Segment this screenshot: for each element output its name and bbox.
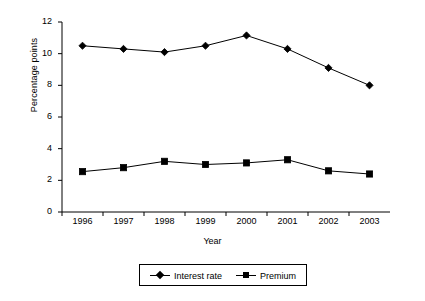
data-point-square bbox=[366, 171, 372, 177]
legend-label: Interest rate bbox=[174, 271, 222, 281]
square-marker-icon bbox=[236, 271, 256, 281]
data-point-square bbox=[120, 165, 126, 171]
y-axis-tick-label: 10 bbox=[30, 49, 52, 58]
y-axis-tick-label: 4 bbox=[30, 144, 52, 153]
data-point-square bbox=[79, 169, 85, 175]
data-point-square bbox=[202, 161, 208, 167]
line-chart: Percentage points 024681012 199619971998… bbox=[0, 0, 425, 301]
series-premium bbox=[79, 157, 372, 177]
y-axis-tick-label: 12 bbox=[30, 17, 52, 26]
legend-item-interest-rate: Interest rate bbox=[150, 269, 222, 283]
y-axis-tick-label: 0 bbox=[30, 207, 52, 216]
x-axis-tick-label: 2003 bbox=[348, 217, 392, 226]
legend-item-premium: Premium bbox=[236, 269, 296, 283]
x-axis-title: Year bbox=[0, 236, 425, 246]
y-axis-tick-label: 2 bbox=[30, 175, 52, 184]
legend-label: Premium bbox=[260, 271, 296, 281]
data-point-diamond bbox=[243, 32, 250, 39]
data-point-diamond bbox=[284, 45, 291, 52]
x-axis-tick-label: 2001 bbox=[266, 217, 310, 226]
x-axis-tick-label: 1997 bbox=[102, 217, 146, 226]
data-point-diamond bbox=[79, 42, 86, 49]
data-point-square bbox=[325, 168, 331, 174]
data-point-square bbox=[243, 160, 249, 166]
data-point-diamond bbox=[202, 42, 209, 49]
data-point-diamond bbox=[325, 64, 332, 71]
data-point-square bbox=[161, 158, 167, 164]
x-axis-tick-label: 1999 bbox=[184, 217, 228, 226]
x-axis-tick-label: 1998 bbox=[143, 217, 187, 226]
legend: Interest rate Premium bbox=[139, 264, 307, 286]
x-axis-tick-label: 2002 bbox=[307, 217, 351, 226]
diamond-marker-icon bbox=[150, 271, 170, 281]
y-axis-tick-label: 8 bbox=[30, 80, 52, 89]
data-point-square bbox=[284, 157, 290, 163]
series-interest-rate bbox=[79, 32, 373, 89]
x-axis-tick-label: 1996 bbox=[61, 217, 105, 226]
data-point-diamond bbox=[366, 82, 373, 89]
data-point-diamond bbox=[120, 45, 127, 52]
y-axis-tick-label: 6 bbox=[30, 112, 52, 121]
series-line bbox=[83, 35, 370, 85]
plot-area bbox=[0, 0, 425, 301]
x-axis-tick-label: 2000 bbox=[225, 217, 269, 226]
data-point-diamond bbox=[161, 48, 168, 55]
